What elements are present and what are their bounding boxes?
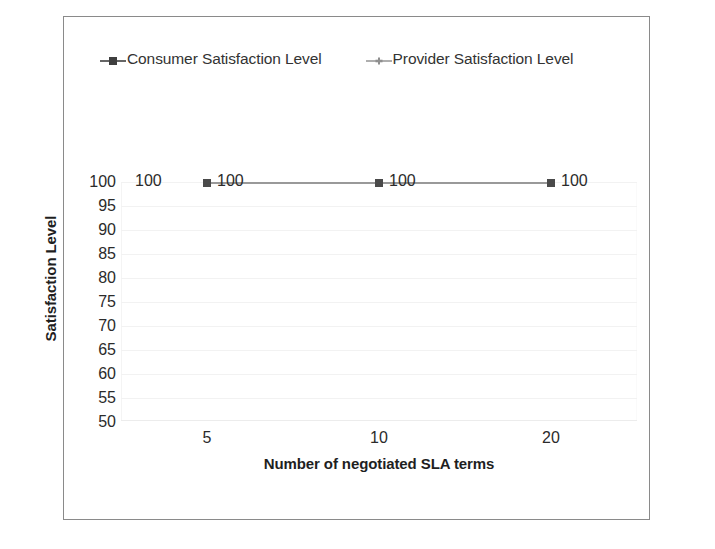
y-tick-label: 70 bbox=[72, 316, 116, 335]
y-tick-label: 80 bbox=[72, 268, 116, 287]
y-tick-label: 60 bbox=[72, 364, 116, 383]
y-tick-label: 55 bbox=[72, 388, 116, 407]
y-tick-label: 75 bbox=[72, 292, 116, 311]
x-axis-title: Number of negotiated SLA terms bbox=[121, 455, 637, 472]
y-axis-tick-labels: 100 95 90 85 80 75 70 65 60 55 50 bbox=[72, 172, 116, 432]
y-tick-label: 95 bbox=[72, 196, 116, 215]
legend-label-consumer: Consumer Satisfaction Level bbox=[127, 50, 322, 68]
chart-legend: Consumer Satisfaction Level Provider Sat… bbox=[100, 46, 620, 72]
y-tick-label: 90 bbox=[72, 220, 116, 239]
data-label-consumer: 100 bbox=[389, 172, 416, 190]
y-tick-label: 100 bbox=[72, 172, 116, 191]
legend-item-consumer[interactable]: Consumer Satisfaction Level bbox=[100, 50, 322, 68]
y-tick-label: 65 bbox=[72, 340, 116, 359]
data-label-provider-first: 100 bbox=[135, 172, 162, 190]
chart-figure: Consumer Satisfaction Level Provider Sat… bbox=[0, 0, 715, 549]
plot-area: 100 100 100 100 bbox=[121, 182, 637, 421]
data-point-marker bbox=[547, 179, 555, 187]
legend-marker-square-icon bbox=[100, 53, 126, 65]
x-tick-label: 20 bbox=[542, 429, 560, 447]
data-point-marker bbox=[203, 179, 211, 187]
y-axis-title: Satisfaction Level bbox=[42, 199, 59, 359]
legend-label-provider: Provider Satisfaction Level bbox=[393, 50, 574, 68]
x-tick-label: 5 bbox=[203, 429, 212, 447]
data-label-consumer: 100 bbox=[561, 172, 588, 190]
y-tick-label: 85 bbox=[72, 244, 116, 263]
data-label-consumer: 100 bbox=[217, 172, 244, 190]
legend-item-provider[interactable]: Provider Satisfaction Level bbox=[366, 50, 574, 68]
x-tick-label: 10 bbox=[370, 429, 388, 447]
series-plot bbox=[121, 182, 637, 421]
data-point-marker bbox=[375, 179, 383, 187]
x-axis-tick-labels: 5 10 20 bbox=[121, 429, 637, 453]
y-tick-label: 50 bbox=[72, 412, 116, 431]
legend-marker-cross-icon bbox=[366, 53, 392, 65]
